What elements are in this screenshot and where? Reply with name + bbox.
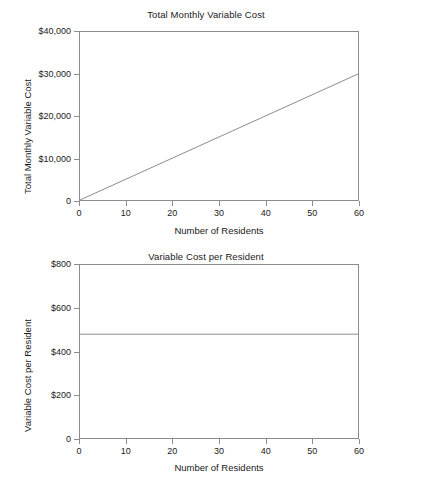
- x-tick-mark: [312, 439, 313, 444]
- figure-canvas: Total Monthly Variable Cost Total Monthl…: [0, 0, 428, 488]
- series-line-variable-cost-per-resident: [80, 265, 358, 438]
- x-tick-label: 10: [121, 208, 131, 218]
- y-tick-label: $400: [19, 347, 71, 357]
- y-axis-label-bottom: Variable Cost per Resident: [22, 319, 33, 432]
- x-tick-mark: [359, 201, 360, 206]
- chart-panel-variable-cost-per-resident: Variable Cost per Resident Variable Cost…: [0, 244, 428, 488]
- x-tick-mark: [359, 439, 360, 444]
- x-tick-label: 50: [307, 208, 317, 218]
- x-tick-label: 0: [76, 208, 81, 218]
- x-tick-mark: [219, 439, 220, 444]
- y-tick-label: $200: [19, 390, 71, 400]
- series-line-total-monthly-variable-cost: [80, 32, 358, 200]
- x-tick-mark: [172, 201, 173, 206]
- y-tick-label: 0: [19, 434, 71, 444]
- x-axis-label-top: Number of Residents: [79, 225, 359, 236]
- x-tick-mark: [126, 201, 127, 206]
- x-tick-label: 60: [354, 446, 364, 456]
- x-tick-label: 20: [167, 446, 177, 456]
- x-tick-mark: [172, 439, 173, 444]
- x-tick-label: 20: [167, 208, 177, 218]
- y-tick-mark: [74, 264, 79, 265]
- x-tick-label: 0: [76, 446, 81, 456]
- chart-title-top: Total Monthly Variable Cost: [36, 9, 376, 20]
- x-tick-mark: [79, 439, 80, 444]
- x-tick-mark: [126, 439, 127, 444]
- y-tick-label: $20,000: [19, 111, 71, 121]
- y-tick-mark: [74, 31, 79, 32]
- y-tick-mark: [74, 308, 79, 309]
- plot-area-top: [79, 31, 359, 201]
- x-axis-label-bottom: Number of Residents: [79, 462, 359, 473]
- y-tick-mark: [74, 352, 79, 353]
- x-tick-mark: [219, 201, 220, 206]
- y-tick-label: $30,000: [19, 69, 71, 79]
- x-tick-label: 60: [354, 208, 364, 218]
- x-tick-label: 30: [214, 446, 224, 456]
- y-tick-label: $40,000: [19, 26, 71, 36]
- plot-area-bottom: [79, 264, 359, 439]
- y-axis-label-top: Total Monthly Variable Cost: [22, 79, 33, 194]
- x-tick-label: 10: [121, 446, 131, 456]
- x-tick-label: 40: [261, 208, 271, 218]
- y-tick-mark: [74, 74, 79, 75]
- y-tick-label: $600: [19, 303, 71, 313]
- chart-title-bottom: Variable Cost per Resident: [36, 251, 376, 262]
- y-tick-mark: [74, 159, 79, 160]
- x-tick-label: 50: [307, 446, 317, 456]
- x-tick-label: 30: [214, 208, 224, 218]
- chart-panel-total-monthly-variable-cost: Total Monthly Variable Cost Total Monthl…: [0, 0, 428, 244]
- y-tick-mark: [74, 116, 79, 117]
- y-tick-label: 0: [19, 196, 71, 206]
- x-tick-mark: [266, 201, 267, 206]
- x-tick-label: 40: [261, 446, 271, 456]
- y-tick-mark: [74, 395, 79, 396]
- x-tick-mark: [312, 201, 313, 206]
- x-tick-mark: [79, 201, 80, 206]
- y-tick-label: $10,000: [19, 154, 71, 164]
- y-tick-label: $800: [19, 259, 71, 269]
- x-tick-mark: [266, 439, 267, 444]
